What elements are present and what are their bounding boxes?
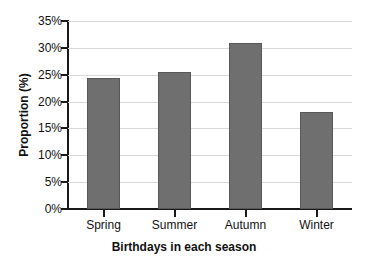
y-axis-tick-label: 5% (28, 175, 62, 189)
y-axis-tick-mark (61, 127, 68, 129)
y-axis-tick-mark (61, 208, 68, 210)
y-axis-tick-label: 15% (28, 121, 62, 135)
x-axis-tick-mark (174, 210, 176, 217)
gridline (68, 21, 352, 22)
x-axis-tick-mark (103, 210, 105, 217)
x-axis-title: Birthdays in each season (0, 240, 368, 254)
y-axis-tick-label: 25% (28, 68, 62, 82)
gridline (68, 48, 352, 49)
x-axis-tick-label: Spring (86, 218, 121, 232)
x-axis-tick-label: Winter (299, 218, 334, 232)
plot-area (68, 21, 352, 209)
y-axis-tick-mark (61, 74, 68, 76)
y-axis-tick-mark (61, 47, 68, 49)
x-axis-tick-label: Summer (152, 218, 197, 232)
bar-chart: Proportion (%) 0%5%10%15%20%25%30%35% Bi… (0, 0, 368, 266)
y-axis-tick-label: 35% (28, 14, 62, 28)
y-axis-tick-label: 20% (28, 95, 62, 109)
gridline (68, 75, 352, 76)
y-axis-tick-labels: 0%5%10%15%20%25%30%35% (28, 0, 62, 266)
y-axis-tick-mark (61, 101, 68, 103)
y-axis-tick-mark (61, 154, 68, 156)
bar (300, 112, 333, 209)
x-axis-tick-mark (245, 210, 247, 217)
y-axis-tick-label: 0% (28, 202, 62, 216)
y-axis-tick-label: 10% (28, 148, 62, 162)
y-axis-tick-mark (61, 20, 68, 22)
bar (158, 72, 191, 209)
y-axis-tick-mark (61, 181, 68, 183)
bar (87, 78, 120, 209)
bar (229, 43, 262, 210)
x-axis-tick-mark (316, 210, 318, 217)
y-axis-tick-label: 30% (28, 41, 62, 55)
x-axis-tick-label: Autumn (225, 218, 266, 232)
